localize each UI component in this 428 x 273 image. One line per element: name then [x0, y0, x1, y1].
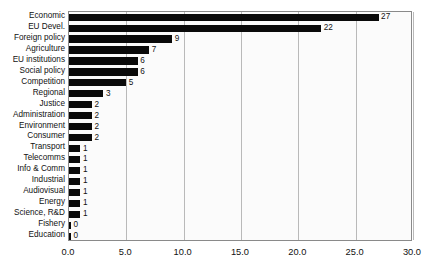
bar-value-label: 2 [94, 100, 99, 110]
bar-row: 7 [69, 45, 411, 55]
bar-series: 27229766532222111111100 [69, 12, 411, 240]
bar-row: 3 [69, 89, 411, 99]
bar [69, 167, 80, 174]
bar [69, 123, 92, 130]
x-tick-label: 15.0 [231, 246, 249, 258]
category-axis-labels: EconomicEU Devel.Foreign policyAgricultu… [0, 11, 65, 241]
bar-value-label: 1 [83, 176, 88, 186]
category-label: EU Devel. [0, 22, 65, 32]
category-label: Consumer [0, 131, 65, 141]
bar [69, 189, 80, 196]
bar-row: 27 [69, 12, 411, 22]
bar [69, 46, 149, 53]
category-label: Economic [0, 11, 65, 21]
bar-value-label: 9 [175, 34, 180, 44]
bar-row: 1 [69, 198, 411, 208]
bar-value-label: 1 [83, 198, 88, 208]
bar-row: 2 [69, 100, 411, 110]
bar-chart-figure: EconomicEU Devel.Foreign policyAgricultu… [0, 0, 428, 273]
bar-row: 6 [69, 56, 411, 66]
bar [69, 79, 126, 86]
bar-value-label: 2 [94, 111, 99, 121]
bar-row: 1 [69, 165, 411, 175]
bar [69, 156, 80, 163]
category-label: Science, R&D [0, 208, 65, 218]
category-label: Telecomms [0, 153, 65, 163]
bar-value-label: 1 [83, 165, 88, 175]
bar [69, 200, 80, 207]
x-axis-tick-labels: 0.05.010.015.020.025.030.0 [68, 246, 412, 260]
category-label: Regional [0, 88, 65, 98]
bar-row: 1 [69, 154, 411, 164]
category-label: Social policy [0, 66, 65, 76]
bar-value-label: 22 [324, 23, 333, 33]
category-label: Fishery [0, 219, 65, 229]
bar-value-label: 1 [83, 154, 88, 164]
category-label: EU institutions [0, 55, 65, 65]
bar-row: 2 [69, 132, 411, 142]
bar-row: 5 [69, 78, 411, 88]
category-label: Administration [0, 110, 65, 120]
x-tick-label: 20.0 [288, 246, 306, 258]
bar-row: 6 [69, 67, 411, 77]
bar-row: 22 [69, 23, 411, 33]
bar-value-label: 0 [74, 231, 79, 241]
bar-value-label: 6 [140, 56, 145, 66]
bar-value-label: 5 [129, 78, 134, 88]
bar [69, 178, 80, 185]
bar-row: 1 [69, 209, 411, 219]
x-tick-label: 5.0 [119, 246, 132, 258]
category-label: Competition [0, 77, 65, 87]
bar-row: 9 [69, 34, 411, 44]
x-tick-label: 0.0 [62, 246, 75, 258]
bar [69, 233, 71, 240]
bar [69, 134, 92, 141]
bar [69, 68, 138, 75]
category-label: Info & Comm [0, 164, 65, 174]
plot-area: 27229766532222111111100 [68, 11, 412, 241]
bar [69, 35, 172, 42]
bar-row: 2 [69, 111, 411, 121]
bar-value-label: 1 [83, 209, 88, 219]
bar [69, 90, 103, 97]
bar-row: 1 [69, 143, 411, 153]
x-tick-label: 30.0 [403, 246, 421, 258]
category-label: Energy [0, 197, 65, 207]
bar [69, 25, 321, 32]
bar [69, 14, 379, 21]
bar-value-label: 7 [152, 45, 157, 55]
bar-value-label: 2 [94, 133, 99, 143]
x-tick-label: 10.0 [174, 246, 192, 258]
bar [69, 145, 80, 152]
bar-value-label: 2 [94, 122, 99, 132]
bar-value-label: 6 [140, 67, 145, 77]
bar [69, 211, 80, 218]
category-label: Agriculture [0, 44, 65, 54]
bar [69, 101, 92, 108]
bar-value-label: 1 [83, 187, 88, 197]
category-label: Audiovisual [0, 186, 65, 196]
gridline-30.0 [413, 12, 414, 240]
category-label: Justice [0, 99, 65, 109]
category-label: Environment [0, 121, 65, 131]
bar-row: 2 [69, 122, 411, 132]
category-label: Foreign policy [0, 33, 65, 43]
bar-row: 0 [69, 220, 411, 230]
bar-value-label: 27 [381, 12, 390, 22]
category-label: Industrial [0, 175, 65, 185]
bar [69, 222, 71, 229]
bar [69, 112, 92, 119]
bar-row: 1 [69, 187, 411, 197]
category-label: Education [0, 230, 65, 240]
bar-value-label: 1 [83, 144, 88, 154]
category-label: Transport [0, 142, 65, 152]
bar-value-label: 3 [106, 89, 111, 99]
bar [69, 57, 138, 64]
bar-row: 1 [69, 176, 411, 186]
bar-value-label: 0 [74, 220, 79, 230]
x-tick-label: 25.0 [346, 246, 364, 258]
bar-row: 0 [69, 231, 411, 241]
